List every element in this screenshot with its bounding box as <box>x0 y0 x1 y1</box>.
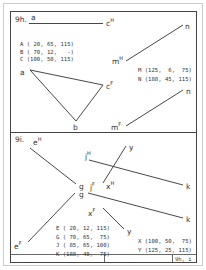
footer-sheet-ref: 9h, i <box>175 256 192 262</box>
panel-title-9i: 9i. <box>15 135 24 144</box>
coord-K: K (188, 40, 75) <box>56 251 110 257</box>
coord-N: N (188, 45, 115) <box>138 76 192 82</box>
coord-G: G ( 70, 65, 75) <box>56 234 110 240</box>
label-k-top: k <box>186 182 191 191</box>
label-xF: xF <box>88 207 95 218</box>
coord-C: C (100, 50, 115) <box>20 56 74 62</box>
line-eH-g <box>30 148 76 184</box>
label-mH: mH <box>112 55 123 66</box>
label-eF: eF <box>14 240 22 251</box>
coord-X: X (100, 50, 75) <box>138 238 192 244</box>
label-g-bottom: g <box>79 190 84 199</box>
line-jH-k <box>89 160 183 185</box>
label-k-bottom: k <box>186 215 191 224</box>
label-jF: jF <box>89 181 95 192</box>
label-cH: cH <box>106 17 114 28</box>
panel-9i: 9i. eH g g eF jH k y xH jF k <box>14 135 192 257</box>
label-jH: jH <box>84 150 91 161</box>
label-a: a <box>20 68 25 77</box>
line-mH-n <box>126 25 183 61</box>
label-n-top: n <box>185 22 190 31</box>
coord-M: M (125, 6, 75) <box>138 67 192 73</box>
label-cF: cF <box>106 80 113 91</box>
label-eH: eH <box>33 136 42 147</box>
line-jF-k <box>88 193 183 218</box>
coord-A: A ( 20, 65, 115) <box>20 41 74 47</box>
coord-Y: Y (125, 25, 115) <box>138 247 192 253</box>
drawing-sheet: 9h, i 9h. a cH n mH A ( 20, 65, 115) B (… <box>0 0 206 270</box>
label-mF: mF <box>111 121 121 132</box>
label-xH: xH <box>106 180 114 191</box>
line-mF-n <box>126 90 183 126</box>
label-y-top: y <box>129 143 134 152</box>
panel-9h: 9h. a cH n mH A ( 20, 65, 115) B ( 70, 1… <box>15 13 192 132</box>
label-a-top: a <box>31 13 36 22</box>
panel-title-9h: 9h. <box>15 15 27 24</box>
coord-J: J ( 85, 65, 100) <box>56 242 110 248</box>
coord-B: B ( 70, 12, -) <box>20 49 74 55</box>
triangle-a-cF-b <box>30 70 103 121</box>
label-n-bottom: n <box>186 87 191 96</box>
label-b: b <box>73 123 78 132</box>
label-y-bottom: y <box>127 227 132 236</box>
coord-E: E ( 20, 12, 115) <box>56 225 110 231</box>
